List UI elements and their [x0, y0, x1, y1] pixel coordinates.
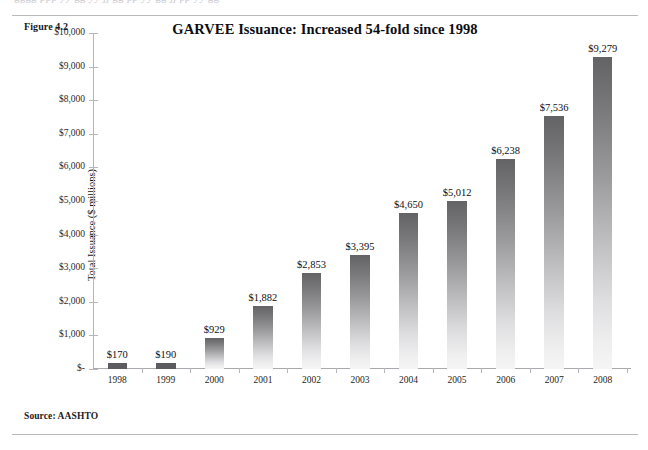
bar-slot: $1,8822001: [253, 33, 272, 369]
x-axis-tick: [578, 368, 579, 373]
x-axis-tick: [239, 368, 240, 373]
x-axis-tick-label: 2000: [191, 375, 238, 385]
x-axis-tick-label: 2001: [239, 375, 286, 385]
y-axis-tick-label: $6,000: [33, 161, 85, 171]
bar-slot: $5,0122005: [447, 33, 466, 369]
x-axis-tick: [481, 368, 482, 373]
y-axis-tick-label: $1,000: [33, 329, 85, 339]
y-axis-tick: [89, 67, 98, 68]
x-axis-tick: [287, 368, 288, 373]
y-axis-tick: [89, 33, 98, 34]
y-axis-tick-label: $5,000: [33, 195, 85, 205]
source-note: Source: AASHTO: [24, 411, 98, 421]
x-axis-tick-label: 2005: [433, 375, 480, 385]
figure-container: Figure 4.2 GARVEE Issuance: Increased 54…: [12, 15, 638, 435]
bar-slot: $1901999: [156, 33, 175, 369]
y-axis-tick-label: $9,000: [33, 61, 85, 71]
bar-value-label: $929: [191, 324, 238, 335]
y-axis-tick: [89, 235, 98, 236]
y-axis-tick: [89, 100, 98, 101]
y-axis-tick-label: $8,000: [33, 94, 85, 104]
bar[interactable]: [253, 306, 272, 369]
y-axis-tick-label: $3,000: [33, 262, 85, 272]
y-axis-tick: [89, 335, 98, 336]
bar-slot: $6,2382006: [496, 33, 515, 369]
x-axis-tick: [384, 368, 385, 373]
x-axis-tick-label: 2004: [385, 375, 432, 385]
bar[interactable]: [399, 213, 418, 369]
bar[interactable]: [350, 255, 369, 369]
bar-value-label: $190: [142, 349, 189, 360]
x-axis-tick-label: 2003: [336, 375, 383, 385]
bar-value-label: $4,650: [385, 199, 432, 210]
bar[interactable]: [593, 57, 612, 369]
scan-artifact-top-line: gggg ppp yy gg yy jj gg pp yy gg jj pp y…: [14, 0, 634, 8]
x-axis-tick: [336, 368, 337, 373]
x-axis-tick-label: 2002: [288, 375, 335, 385]
bar-value-label: $6,238: [482, 145, 529, 156]
x-axis-tick-label: 2006: [482, 375, 529, 385]
bar[interactable]: [302, 273, 321, 369]
x-axis-tick-label: 2007: [530, 375, 577, 385]
bar-slot: $7,5362007: [544, 33, 563, 369]
y-axis-tick-label: $2,000: [33, 296, 85, 306]
scan-artifact-text: gggg ppp yy gg yy jj gg pp yy gg jj pp y…: [14, 0, 634, 3]
bar-value-label: $170: [94, 349, 141, 360]
x-axis-tick-label: 1999: [142, 375, 189, 385]
x-axis-tick: [142, 368, 143, 373]
bar-value-label: $5,012: [433, 187, 480, 198]
y-axis-tick: [89, 201, 98, 202]
bar-value-label: $7,536: [530, 102, 577, 113]
bar-value-label: $1,882: [239, 292, 286, 303]
y-axis-tick: [89, 268, 98, 269]
x-axis-tick: [627, 368, 628, 373]
y-axis-tick: [89, 369, 98, 370]
bar-value-label: $9,279: [579, 43, 626, 54]
bar-value-label: $2,853: [288, 259, 335, 270]
bar[interactable]: [205, 338, 224, 369]
bar-slot: $4,6502004: [399, 33, 418, 369]
y-axis-tick-label: $10,000: [33, 27, 85, 37]
y-axis-tick: [89, 134, 98, 135]
y-axis-tick-label: $7,000: [33, 128, 85, 138]
x-axis-tick: [190, 368, 191, 373]
bar-slot: $9292000: [205, 33, 224, 369]
y-axis-tick: [89, 302, 98, 303]
plot-area: $10,000$9,000$8,000$7,000$6,000$5,000$4,…: [93, 33, 627, 369]
x-axis-tick: [433, 368, 434, 373]
bar-slot: $2,8532002: [302, 33, 321, 369]
bar[interactable]: [496, 159, 515, 369]
bar[interactable]: [447, 201, 466, 369]
bar[interactable]: [108, 363, 127, 369]
bar-slot: $1701998: [108, 33, 127, 369]
x-axis-tick-label: 2008: [579, 375, 626, 385]
bar-slot: $9,2792008: [593, 33, 612, 369]
y-axis-tick-label: $-: [33, 363, 85, 373]
bar-slot: $3,3952003: [350, 33, 369, 369]
bar-value-label: $3,395: [336, 241, 383, 252]
bar[interactable]: [544, 116, 563, 369]
y-axis-tick-label: $4,000: [33, 229, 85, 239]
bar[interactable]: [156, 363, 175, 369]
y-axis-tick: [89, 167, 98, 168]
x-axis-tick-label: 1998: [94, 375, 141, 385]
x-axis-tick: [530, 368, 531, 373]
